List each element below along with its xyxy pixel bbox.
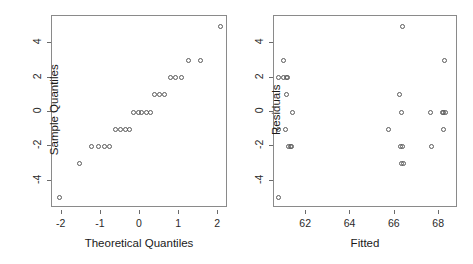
plot-area-qq	[51, 15, 227, 207]
x-tick-mark	[349, 210, 350, 214]
y-tick-label: -2	[32, 138, 43, 152]
plot-area-residuals	[273, 15, 457, 207]
y-tick-label: 4	[254, 35, 265, 49]
y-tick-label: 0	[32, 103, 43, 117]
x-tick-label: 0	[136, 218, 142, 229]
x-axis-label-residuals: Fitted	[351, 238, 380, 250]
y-tick-mark	[269, 180, 273, 181]
x-tick-mark	[178, 210, 179, 214]
x-tick-label: -2	[56, 218, 65, 229]
data-point	[57, 195, 62, 200]
data-point	[441, 127, 446, 132]
data-point	[398, 144, 403, 149]
data-points-qq	[52, 16, 226, 206]
data-point	[400, 24, 405, 29]
y-tick-mark	[269, 42, 273, 43]
data-point	[162, 92, 167, 97]
x-tick-label: 68	[432, 218, 444, 229]
data-point	[198, 58, 203, 63]
data-point	[96, 144, 101, 149]
data-point	[386, 127, 391, 132]
data-point	[148, 110, 153, 115]
data-point	[77, 161, 82, 166]
y-tick-label: 2	[32, 69, 43, 83]
data-point	[107, 144, 112, 149]
data-point	[127, 127, 132, 132]
x-tick-label: -1	[95, 218, 104, 229]
y-tick-label: 2	[254, 69, 265, 83]
data-point	[285, 75, 290, 80]
data-point	[186, 58, 191, 63]
y-tick-label: 4	[32, 35, 43, 49]
x-tick-label: 62	[299, 218, 311, 229]
y-tick-mark	[47, 42, 51, 43]
data-point	[283, 127, 288, 132]
figure-container: -2-1012-4-2024 Theoretical Quantiles Sam…	[0, 0, 473, 264]
data-point	[441, 110, 446, 115]
x-tick-mark	[139, 210, 140, 214]
y-tick-label: -2	[254, 138, 265, 152]
data-point	[276, 195, 281, 200]
data-point	[397, 92, 402, 97]
data-point	[428, 110, 433, 115]
x-tick-mark	[394, 210, 395, 214]
x-tick-mark	[217, 210, 218, 214]
x-tick-label: 66	[388, 218, 400, 229]
x-tick-label: 64	[344, 218, 356, 229]
data-point	[284, 92, 289, 97]
x-tick-label: 2	[214, 218, 220, 229]
x-tick-label: 1	[175, 218, 181, 229]
y-tick-label: -4	[32, 172, 43, 186]
data-point	[218, 24, 223, 29]
x-tick-mark	[100, 210, 101, 214]
x-tick-mark	[61, 210, 62, 214]
data-point	[399, 110, 404, 115]
data-point	[289, 144, 294, 149]
data-point	[102, 144, 107, 149]
data-point	[442, 58, 447, 63]
panel-qq-plot: -2-1012-4-2024 Theoretical Quantiles Sam…	[0, 0, 237, 264]
x-tick-mark	[438, 210, 439, 214]
x-axis-label-qq: Theoretical Quantiles	[85, 238, 194, 250]
y-axis-label-residuals: Residuals	[271, 60, 283, 160]
y-tick-label: -4	[254, 172, 265, 186]
data-point	[429, 144, 434, 149]
data-point	[89, 144, 94, 149]
data-point	[179, 75, 184, 80]
data-point	[173, 75, 178, 80]
data-points-residuals	[274, 16, 456, 206]
y-tick-label: 0	[254, 103, 265, 117]
data-point	[399, 161, 404, 166]
y-tick-mark	[47, 180, 51, 181]
x-tick-mark	[305, 210, 306, 214]
y-axis-label-qq: Sample Quantiles	[49, 60, 61, 160]
panel-residuals-plot: 62646668-4-2024 Fitted Residuals	[237, 0, 473, 264]
data-point	[290, 110, 295, 115]
